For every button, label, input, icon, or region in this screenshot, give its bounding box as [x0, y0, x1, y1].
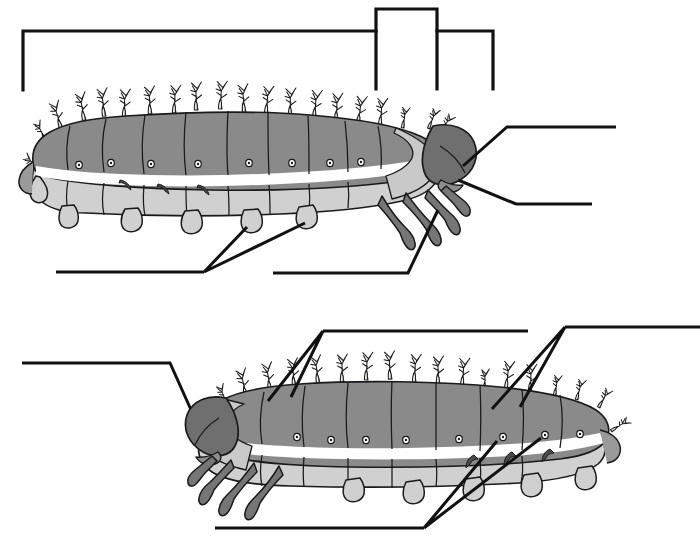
caterpillar-anatomy-diagram [0, 0, 700, 553]
worksheet-canvas [0, 0, 700, 553]
